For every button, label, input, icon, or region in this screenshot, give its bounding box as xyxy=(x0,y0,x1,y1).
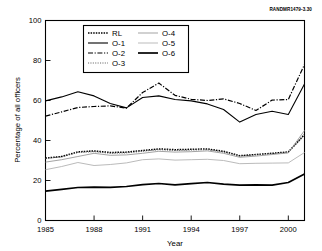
legend-label-o-3: O-3 xyxy=(112,59,125,68)
y-tick-label: 80 xyxy=(33,56,41,65)
legend-label-o-1: O-1 xyxy=(112,39,125,48)
data-series-group xyxy=(46,65,305,192)
x-tick-label: 1997 xyxy=(231,225,248,234)
y-tick-label: 60 xyxy=(33,96,41,105)
figure-container: RANDMR1479-3.30 020406080100 19851988199… xyxy=(0,0,322,251)
legend-label-rl: RL xyxy=(112,29,123,38)
x-axis-ticks xyxy=(46,216,289,221)
x-axis-title: Year xyxy=(167,239,183,248)
y-tick-label: 100 xyxy=(29,16,42,25)
y-tick-label: 40 xyxy=(33,136,41,145)
legend-label-o-2: O-2 xyxy=(112,49,125,58)
line-chart: 020406080100 198519881991199419972000 Ye… xyxy=(0,0,322,251)
series-line-o-1 xyxy=(46,84,305,122)
legend-label-o-4: O-4 xyxy=(162,29,176,38)
series-line-o-4 xyxy=(46,131,305,163)
x-tick-label: 1985 xyxy=(37,225,54,234)
y-tick-label: 20 xyxy=(33,176,41,185)
y-axis-tick-labels: 020406080100 xyxy=(29,16,42,225)
series-line-o-6 xyxy=(46,174,305,191)
chart-legend: RLO-1O-2O-3O-4O-5O-6 xyxy=(84,26,189,73)
legend-label-o-6: O-6 xyxy=(162,49,175,58)
x-tick-label: 2000 xyxy=(280,225,297,234)
x-tick-label: 1991 xyxy=(134,225,151,234)
x-axis-tick-labels: 198519881991199419972000 xyxy=(37,225,297,234)
legend-label-o-5: O-5 xyxy=(162,39,176,48)
x-tick-label: 1994 xyxy=(183,225,200,234)
x-tick-label: 1988 xyxy=(86,225,103,234)
y-axis-title: Percentage of all officers xyxy=(13,77,22,163)
